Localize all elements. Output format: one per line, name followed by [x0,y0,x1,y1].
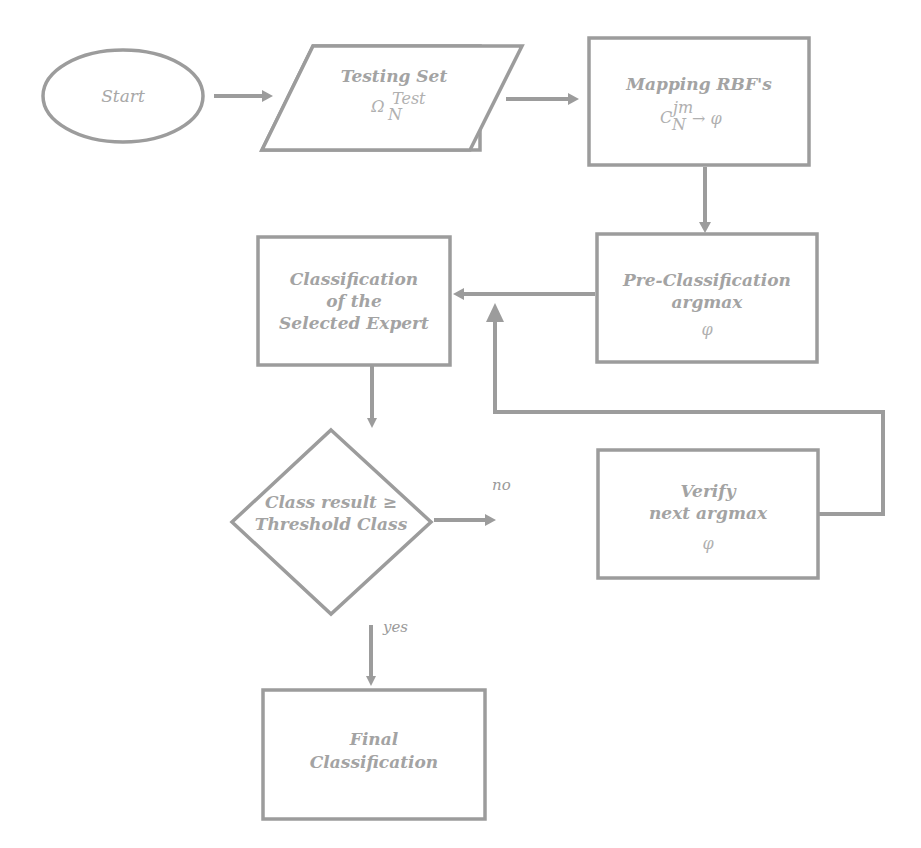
arrow-decision-to-final [366,625,376,686]
decision-node: Class result ≥ Threshold Class [232,430,431,614]
verify-node: Verify next argmax φ [598,450,818,578]
start-node: Start [43,50,203,142]
classification-expert-line1: Classification [290,269,418,289]
arrow-start-to-testing [214,90,273,102]
edge-label-yes: yes [382,618,408,636]
final-classification-node: Final Classification [263,690,485,819]
mapping-rbf-title: Mapping RBF's [625,74,772,94]
mapping-rbf-math-tail: → φ [692,109,722,128]
final-line1: Final [349,729,399,749]
flowchart: Start Testing Set Ω Test N Mapping RBF's… [0,0,921,848]
pre-classification-node: Pre-Classification argmax φ [597,234,817,362]
edge-label-no: no [492,476,511,494]
pre-classification-line1: Pre-Classification [622,270,791,290]
mapping-rbf-math-base: C [660,108,672,127]
classification-expert-line3: Selected Expert [279,313,429,333]
final-line2: Classification [310,752,438,772]
testing-set-math-sub: N [387,105,403,124]
arrow-testing-to-mapping [506,93,579,105]
decision-line1: Class result ≥ [265,492,397,512]
mapping-rbf-math-sub: N [671,115,687,134]
testing-set-title: Testing Set [341,66,448,86]
arrow-decision-to-verify [434,514,496,526]
verify-line1: Verify [680,481,736,501]
start-label: Start [101,86,145,106]
verify-phi: φ [702,534,714,553]
arrow-mapping-to-preclass [699,167,711,233]
testing-set-node: Testing Set Ω Test N [262,46,522,150]
pre-classification-phi: φ [701,320,713,339]
decision-line2: Threshold Class [255,514,408,534]
pre-classification-line2: argmax [672,292,744,312]
arrow-preclass-to-expert [453,288,595,300]
classification-expert-line2: of the [326,291,382,311]
verify-line2: next argmax [649,503,768,523]
arrow-expert-to-decision [367,366,377,428]
classification-expert-node: Classification of the Selected Expert [258,237,450,365]
mapping-rbf-node: Mapping RBF's C jm N → φ [589,38,809,165]
testing-set-math-base: Ω [370,97,384,116]
